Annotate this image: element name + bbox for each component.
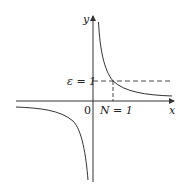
origin-label: 0 (84, 104, 91, 117)
y-axis-label: y (82, 13, 90, 26)
n-label: N = 1 (99, 104, 133, 117)
hyperbola-branch-right (99, 22, 173, 96)
graph-canvas: y x 0 ε = 1 N = 1 (0, 0, 191, 190)
epsilon-label: ε = 1 (67, 75, 96, 88)
hyperbola-branch-left (16, 107, 88, 180)
x-axis-label: x (169, 104, 176, 117)
